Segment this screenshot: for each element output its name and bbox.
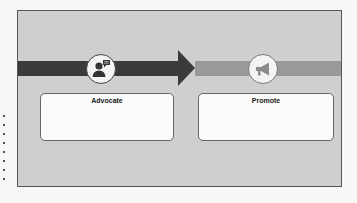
advocate-card: Advocate xyxy=(40,93,174,141)
advocate-icon-circle xyxy=(86,54,116,84)
megaphone-icon xyxy=(252,58,274,80)
arrow-head xyxy=(178,50,195,86)
promote-icon-circle xyxy=(248,54,278,84)
promote-card: Promote xyxy=(198,93,334,141)
margin-text-fragments xyxy=(3,115,7,190)
advocate-label: Advocate xyxy=(41,97,173,104)
person-speech-icon xyxy=(90,58,112,80)
promote-label: Promote xyxy=(199,97,333,104)
diagram-frame: Advocate Promote xyxy=(17,10,342,187)
